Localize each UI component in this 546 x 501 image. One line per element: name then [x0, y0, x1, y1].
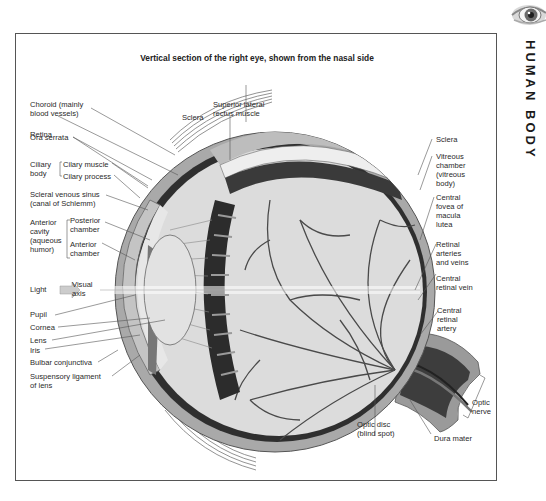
label-central-retinal-vein: Central retinal vein — [436, 274, 473, 292]
label-anterior-chamber: Anterior chamber — [70, 240, 100, 258]
label-dura-mater: Dura mater — [434, 434, 472, 443]
label-choroid: Choroid (mainly blood vessels) — [30, 100, 83, 118]
label-posterior-chamber: Posterior chamber — [70, 216, 100, 234]
label-light: Light — [30, 285, 46, 294]
label-cornea: Cornea — [30, 323, 55, 332]
label-ciliary-body: Ciliary body — [30, 160, 51, 178]
label-sclera-right: Sclera — [436, 135, 458, 144]
label-visual-axis: Visual axis — [72, 280, 93, 298]
label-pupil: Pupil — [30, 310, 47, 319]
label-sclera-top: Sclera — [182, 113, 204, 122]
label-optic-nerve: Optic nerve — [472, 398, 491, 416]
label-superior-lateral-rectus: Superior lateral rectus muscle — [213, 100, 265, 118]
label-retinal-arteries-veins: Retinal arteries and veins — [436, 240, 469, 267]
label-anterior-cavity: Anterior cavity (aqueous humor) — [30, 218, 62, 254]
label-suspensory-ligament: Suspensory ligament of lens — [30, 372, 101, 390]
label-lens: Lens — [30, 336, 46, 345]
label-central-fovea: Central fovea of macula lutea — [436, 193, 463, 229]
label-central-retinal-artery: Central retinal artery — [437, 306, 461, 333]
label-optic-disc: Optic disc (blind spot) — [357, 420, 395, 438]
label-iris: Iris — [30, 346, 40, 355]
label-vitreous-chamber: Vitreous chamber (vitreous body) — [436, 152, 466, 188]
label-bulbar-conjunctiva: Bulbar conjunctiva — [30, 358, 92, 367]
label-scleral-venous-sinus: Scleral venous sinus (canal of Schlemm) — [30, 190, 100, 208]
label-ciliary-muscle: Cilary muscle — [63, 160, 109, 169]
label-ciliary-process: Cilary process — [63, 172, 111, 181]
label-ora-serrata: Ora serrata — [30, 133, 68, 142]
